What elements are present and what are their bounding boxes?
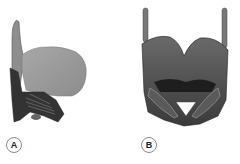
panel-b-posterior-view: B bbox=[120, 0, 240, 164]
panel-label-b: B bbox=[141, 137, 157, 153]
panel-a-lateral-view: A bbox=[0, 0, 120, 164]
larynx-posterior-illustration bbox=[120, 0, 240, 164]
larynx-figure: A B bbox=[0, 0, 240, 164]
panel-label-a: A bbox=[6, 137, 22, 153]
